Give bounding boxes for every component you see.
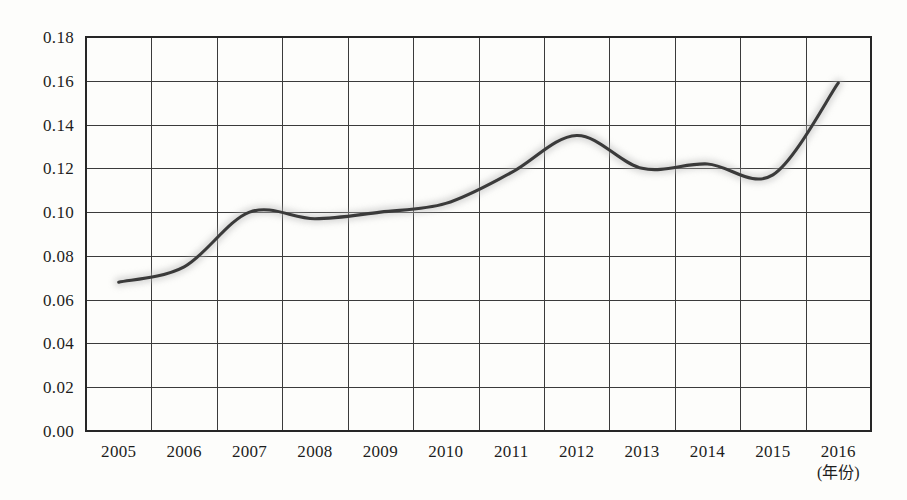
x-tick-label: 2007 xyxy=(232,442,267,461)
y-tick-label: 0.16 xyxy=(43,72,74,91)
y-tick-label: 0.06 xyxy=(43,291,74,310)
y-tick-label: 0.14 xyxy=(43,116,74,135)
y-tick-label: 0.18 xyxy=(43,28,74,47)
line-chart: 0.000.020.040.060.080.100.120.140.160.18… xyxy=(0,0,907,500)
y-tick-label: 0.10 xyxy=(43,203,74,222)
x-axis-unit-label: (年份) xyxy=(817,464,860,482)
x-tick-label: 2010 xyxy=(428,442,463,461)
y-tick-label: 0.04 xyxy=(43,334,74,353)
x-tick-label: 2009 xyxy=(363,442,398,461)
y-tick-label: 0.02 xyxy=(43,378,74,397)
x-tick-label: 2012 xyxy=(559,442,594,461)
chart-page: 0.000.020.040.060.080.100.120.140.160.18… xyxy=(0,0,907,500)
chart-background xyxy=(0,0,907,500)
x-tick-label: 2005 xyxy=(101,442,136,461)
x-tick-label: 2013 xyxy=(624,442,659,461)
y-tick-label: 0.12 xyxy=(43,159,74,178)
y-tick-label: 0.00 xyxy=(43,422,74,441)
x-tick-label: 2016 xyxy=(821,442,856,461)
x-tick-label: 2006 xyxy=(167,442,202,461)
x-tick-label: 2008 xyxy=(297,442,332,461)
x-tick-label: 2014 xyxy=(690,442,725,461)
y-tick-label: 0.08 xyxy=(43,247,74,266)
x-tick-label: 2015 xyxy=(755,442,790,461)
x-tick-label: 2011 xyxy=(494,442,529,461)
